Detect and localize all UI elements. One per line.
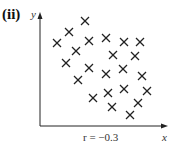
data-point (53, 39, 61, 47)
data-point (108, 103, 116, 111)
data-point (74, 76, 82, 84)
data-point (85, 37, 93, 45)
data-point (72, 47, 80, 55)
data-point (120, 85, 128, 93)
data-point (136, 38, 144, 46)
data-point (102, 70, 110, 78)
data-point (89, 94, 97, 102)
x-axis-arrow-icon (161, 124, 168, 129)
data-point (119, 65, 127, 73)
correlation-annotation: r = −0.3 (83, 131, 119, 143)
data-point (120, 38, 128, 46)
data-point (81, 17, 89, 25)
data-point (65, 28, 73, 36)
x-axis-label: x (161, 131, 167, 143)
y-axis-label: y (30, 8, 36, 20)
data-point (126, 111, 134, 119)
data-point (109, 51, 117, 59)
data-point (143, 87, 151, 95)
y-axis-arrow-icon (38, 12, 43, 19)
data-point (138, 72, 146, 80)
data-point (62, 59, 70, 67)
data-point (104, 89, 112, 97)
scatter-plot: y x r = −0.3 (0, 0, 178, 149)
data-point (102, 34, 110, 42)
data-point (85, 64, 93, 72)
data-point (134, 99, 142, 107)
data-point (131, 52, 139, 60)
